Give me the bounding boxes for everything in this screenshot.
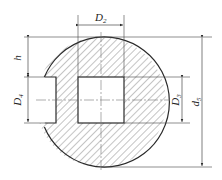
svg-text:D4: D4 — [11, 94, 25, 107]
label-d5: d5 — [189, 97, 203, 107]
svg-text:D3: D3 — [169, 94, 183, 107]
label-D3: D3 — [169, 94, 183, 107]
svg-text:h: h — [11, 55, 23, 61]
svg-text:D2: D2 — [94, 11, 107, 25]
technical-drawing: D2 h D4 D3 d5 — [0, 0, 222, 180]
label-D4: D4 — [11, 94, 25, 107]
label-D2: D2 — [94, 11, 107, 25]
svg-text:d5: d5 — [189, 97, 203, 107]
hatched-section — [30, 30, 175, 175]
label-h: h — [11, 55, 23, 61]
